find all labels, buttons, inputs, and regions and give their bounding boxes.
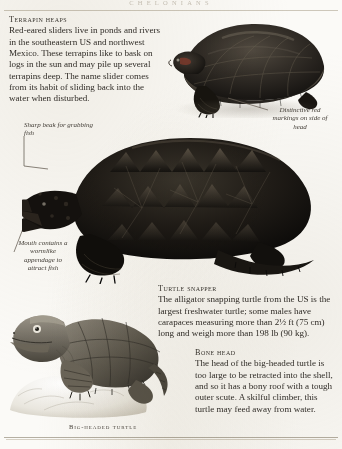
turtle-snapper-body: The alligator snapping turtle from the U… <box>158 294 338 339</box>
terrapin-heaps-body: Red-eared sliders live in ponds and rive… <box>9 25 161 104</box>
section-terrapin-heaps: Terrapin heaps Red-eared sliders live in… <box>9 15 161 105</box>
section-turtle-snapper: Turtle snapper The alligator snapping tu… <box>158 284 338 340</box>
running-head: Chelonians <box>0 0 342 6</box>
leader-line-red-markings <box>228 96 276 114</box>
footer-rule-secondary <box>6 439 336 440</box>
annotation-red-markings: Distinctive red markings on side of head <box>266 106 334 131</box>
book-page: Chelonians <box>0 0 342 449</box>
turtle-snapper-heading: Turtle snapper <box>158 284 338 293</box>
section-bone-head: Bone head The head of the big-headed tur… <box>195 348 338 415</box>
big-headed-turtle-art <box>4 292 172 420</box>
header-rule <box>4 10 338 11</box>
bone-head-heading: Bone head <box>195 348 338 357</box>
bone-head-body: The head of the big-headed turtle is too… <box>195 358 338 414</box>
footer-rule <box>4 437 338 438</box>
snapping-turtle-photo <box>22 132 324 284</box>
terrapin-heaps-heading: Terrapin heaps <box>9 15 161 24</box>
caption-big-headed-turtle: Big-headed turtle <box>28 423 178 430</box>
